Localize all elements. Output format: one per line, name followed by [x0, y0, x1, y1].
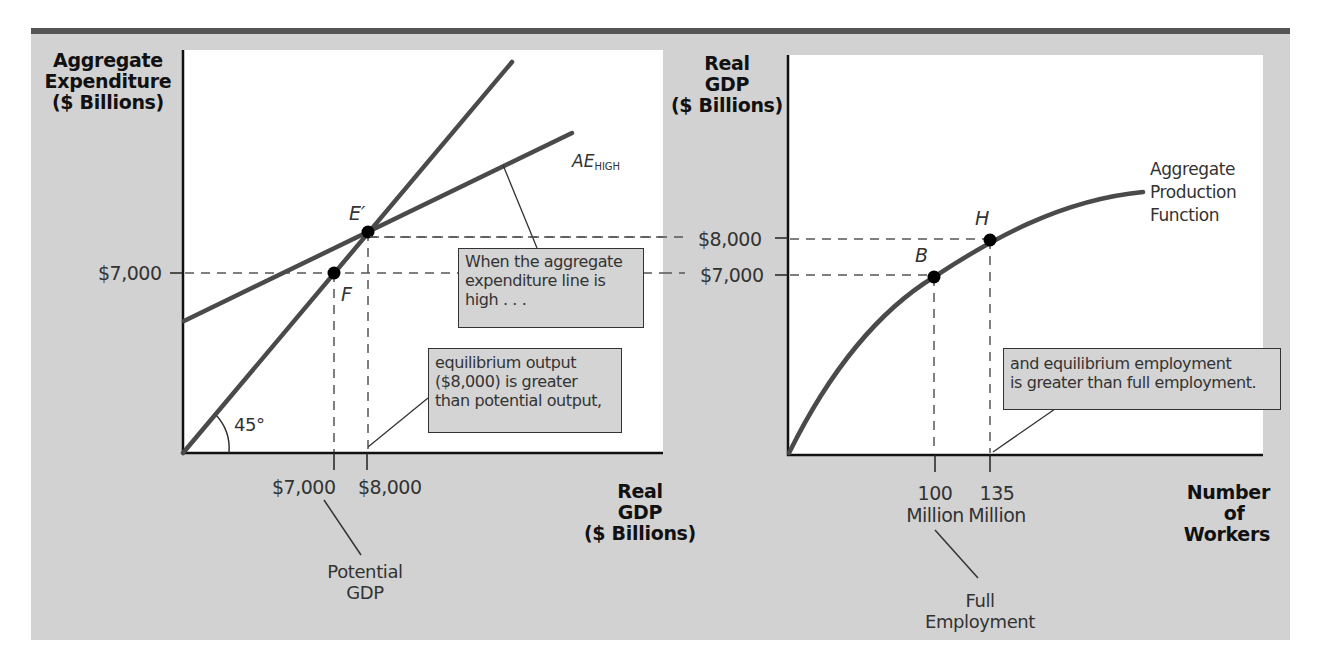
point-b	[928, 271, 941, 284]
potential-gdp-note: Potential GDP	[310, 561, 420, 603]
left-y-axis-title-line-1: Aggregate	[38, 50, 178, 71]
label-f: F	[341, 283, 352, 305]
potential-gdp-leader	[324, 500, 361, 555]
right-x-tick-100-unit: Million	[897, 504, 973, 526]
right-x-axis-title-line-2: of	[1168, 503, 1270, 524]
left-x-tick-8000: $8,000	[358, 476, 421, 498]
left-ticks	[170, 273, 367, 470]
aggregate-production-function-curve	[789, 192, 1143, 453]
callout-3-leader	[993, 409, 1055, 452]
callout-2-line-1: equilibrium output	[435, 353, 615, 372]
label-b: B	[915, 244, 928, 266]
callout-3-line-1: and equilibrium employment	[1010, 354, 1274, 373]
full-employment-note: Full Employment	[915, 590, 1045, 632]
chart-geometry	[0, 0, 1320, 671]
right-y-axis-title: Real GDP ($ Billions)	[668, 53, 786, 116]
angle-label: 45°	[234, 414, 264, 436]
callout-1-leader	[503, 165, 537, 248]
label-h: H	[975, 207, 989, 229]
left-x-tick-7000: $7,000	[272, 476, 335, 498]
right-y-axis-title-line-2: GDP	[668, 74, 786, 95]
left-x-axis-title-line-2: GDP	[570, 502, 710, 523]
left-y-axis-title: Aggregate Expenditure ($ Billions)	[38, 50, 178, 113]
right-x-tick-135: 135 Million	[965, 482, 1029, 526]
angle-arc	[215, 414, 229, 453]
label-e-prime: E′	[349, 202, 365, 224]
left-y-tick-7000: $7,000	[98, 262, 161, 284]
right-ticks	[775, 238, 990, 472]
full-employment-leader	[935, 530, 978, 578]
callout-2-leader	[368, 398, 428, 447]
ae-label-main: AE	[572, 151, 594, 171]
right-y-tick-7000: $7,000	[698, 264, 763, 286]
full-employment-note-line-1: Full	[915, 590, 1045, 611]
curve-label-line-3: Function	[1150, 204, 1236, 227]
right-x-tick-135-value: 135	[965, 482, 1029, 504]
right-x-axis-title: Number of Workers	[1168, 482, 1270, 545]
point-h	[984, 234, 997, 247]
right-x-axis-title-line-3: Workers	[1168, 524, 1270, 545]
left-x-axis-title: Real GDP ($ Billions)	[570, 481, 710, 544]
callout-equilibrium-employment: and equilibrium employment is greater th…	[1003, 348, 1281, 410]
right-y-axis-title-line-3: ($ Billions)	[668, 95, 786, 116]
potential-gdp-note-line-1: Potential	[310, 561, 420, 582]
left-x-axis-title-line-1: Real	[570, 481, 710, 502]
point-f	[328, 267, 341, 280]
ae-label-subscript: HIGH	[594, 161, 620, 172]
potential-gdp-note-line-2: GDP	[310, 582, 420, 603]
right-x-tick-135-unit: Million	[965, 504, 1029, 526]
curve-label-line-2: Production	[1150, 181, 1236, 204]
callout-equilibrium-output: equilibrium output ($8,000) is greater t…	[428, 348, 622, 433]
full-employment-note-line-2: Employment	[915, 611, 1045, 632]
callout-1-line-2: expenditure line is	[465, 271, 637, 290]
callout-2-line-3: than potential output,	[435, 391, 615, 410]
production-function-label: Aggregate Production Function	[1150, 158, 1236, 227]
ae-high-label: AEHIGH	[572, 151, 620, 172]
callout-3-line-2: is greater than full employment.	[1010, 373, 1274, 392]
right-x-tick-100-value: 100	[897, 482, 973, 504]
right-x-axis-title-line-1: Number	[1168, 482, 1270, 503]
right-y-axis-title-line-1: Real	[668, 53, 786, 74]
callout-1-line-1: When the aggregate	[465, 252, 637, 271]
callout-2-line-2: ($8,000) is greater	[435, 372, 615, 391]
callout-1-line-3: high . . .	[465, 290, 637, 309]
callout-ae-high: When the aggregate expenditure line is h…	[458, 248, 644, 328]
curve-label-line-1: Aggregate	[1150, 158, 1236, 181]
left-y-axis-title-line-2: Expenditure	[38, 71, 178, 92]
left-y-axis-title-line-3: ($ Billions)	[38, 92, 178, 113]
right-y-tick-8000: $8,000	[696, 228, 761, 250]
left-x-axis-title-line-3: ($ Billions)	[570, 523, 710, 544]
right-x-tick-100: 100 Million	[897, 482, 973, 526]
